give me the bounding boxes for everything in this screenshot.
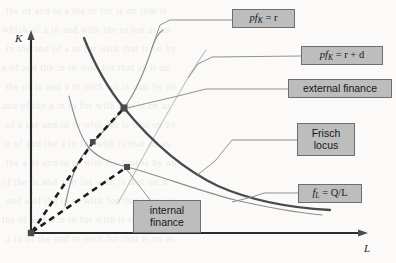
callout-internal-finance[interactable]: internal finance [133, 200, 201, 233]
leader-internal-finance [127, 170, 150, 200]
callout-pfk-r-text: pfK = r [250, 12, 278, 25]
callout-fl-ql-text: fL = Q/L [312, 187, 347, 200]
node-mid-crossing [90, 139, 96, 145]
leader-external-finance [127, 89, 288, 108]
leader-pfk-r-plus-d [188, 56, 301, 78]
leader-frisch-locus [196, 140, 297, 176]
callout-internal-finance-line2: finance [150, 217, 184, 229]
callout-frisch-locus-line2: locus [314, 140, 339, 152]
y-axis-label: K [14, 32, 23, 44]
leader-pfk-r [152, 20, 232, 48]
callout-frisch-locus[interactable]: Frisch locus [297, 123, 355, 156]
y-axis-arrowhead [27, 30, 34, 40]
callout-external-finance-text: external finance [303, 83, 377, 95]
x-axis-label: L [363, 242, 370, 254]
diagram-canvas: the of and in a the to for is on that it… [0, 0, 396, 263]
callout-pfk-rd-text: pfK = r + d [320, 49, 364, 62]
callout-external-finance[interactable]: external finance [288, 79, 392, 98]
callout-pfk-equals-r[interactable]: pfK = r [232, 9, 295, 28]
curve-fl-ql [69, 96, 322, 215]
callout-internal-finance-line1: internal [150, 205, 184, 217]
curve-frisch-locus [84, 38, 330, 210]
ray-internal-finance [32, 167, 127, 232]
callout-frisch-locus-line1: Frisch [312, 128, 341, 140]
callout-pfk-equals-r-plus-d[interactable]: pfK = r + d [301, 46, 383, 65]
x-axis-arrowhead [358, 229, 368, 236]
node-origin [28, 230, 34, 236]
node-external-finance [121, 105, 128, 112]
curve-pfk-r-plus-d [118, 50, 206, 203]
callout-fl-equals-q-over-l[interactable]: fL = Q/L [298, 184, 362, 203]
node-internal-finance [124, 164, 130, 170]
